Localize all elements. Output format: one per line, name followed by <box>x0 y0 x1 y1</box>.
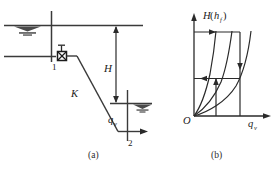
x-axis-label: q v <box>248 118 257 131</box>
y-axis-arrowhead <box>191 13 197 21</box>
figure-canvas: 1 K q v 2 H <box>0 0 279 175</box>
panel-b: H ( h f ) q v O <box>183 10 271 131</box>
svg-text:h: h <box>214 10 219 21</box>
x-axis-arrowhead <box>263 113 271 119</box>
loop-arrow-left <box>200 76 207 82</box>
panel-a: 1 K q v 2 H <box>4 11 152 148</box>
label-point-1: 1 <box>52 62 57 72</box>
resistance-curve-2 <box>194 31 232 116</box>
y-axis-label: H ( h f ) <box>202 10 227 23</box>
head-dimension-H: H <box>103 26 119 103</box>
valve-x-square-icon <box>58 45 67 60</box>
loop-arrow-right <box>209 29 216 35</box>
lower-free-surface-symbol <box>133 105 152 113</box>
svg-text:v: v <box>114 120 117 127</box>
svg-text:q: q <box>108 114 113 125</box>
loop-arrow-down <box>237 63 243 70</box>
origin-label: O <box>183 115 191 126</box>
caption-a: (a) <box>88 150 99 160</box>
label-flow-rate-qv: q v <box>108 114 117 127</box>
label-point-2: 2 <box>128 138 133 148</box>
label-head-H: H <box>103 62 113 74</box>
resistance-curve-1 <box>194 31 216 116</box>
resistance-curve-3 <box>194 31 251 116</box>
svg-text:): ) <box>223 10 227 22</box>
svg-text:q: q <box>248 118 253 129</box>
upper-free-surface-symbol <box>14 27 41 36</box>
label-resistance-K: K <box>70 88 79 99</box>
caption-b: (b) <box>211 150 222 160</box>
svg-text:v: v <box>254 124 257 131</box>
discharge-flow-arrowhead <box>140 129 148 135</box>
